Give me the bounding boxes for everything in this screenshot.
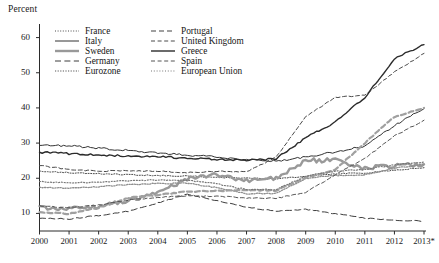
legend-column-right: PortugalUnited KingdomGreeceSpainEuropea… [150, 26, 286, 39]
y-tick-label: 20 [8, 172, 30, 182]
legend-item-greece[interactable]: Greece [150, 46, 286, 56]
legend-line-swatch-icon [150, 46, 176, 56]
y-tick-label: 10 [8, 207, 30, 217]
legend-label: United Kingdom [181, 36, 244, 46]
legend-label: Germany [85, 56, 120, 66]
legend-item-italy[interactable]: Italy [54, 36, 146, 46]
legend-label: European Union [181, 66, 242, 76]
legend-item-eurozone[interactable]: Eurozone [54, 66, 146, 76]
legend-item-portugal[interactable]: Portugal [150, 26, 286, 36]
series-line-spain [40, 120, 425, 208]
legend-label: Portugal [181, 26, 213, 36]
legend-label: Sweden [85, 46, 114, 56]
y-tick-label: 60 [8, 32, 30, 42]
x-tick-label: 2013* [407, 236, 439, 246]
legend-label: France [85, 26, 110, 36]
legend-line-swatch-icon [54, 46, 80, 56]
legend-item-sweden[interactable]: Sweden [54, 46, 146, 56]
y-tick-label: 30 [8, 137, 30, 147]
legend-line-swatch-icon [150, 56, 176, 66]
legend-item-germany[interactable]: Germany [54, 56, 146, 66]
legend-item-united-kingdom[interactable]: United Kingdom [150, 36, 286, 46]
legend-line-swatch-icon [54, 56, 80, 66]
chart-legend: FranceItalySwedenGermanyEurozone Portuga… [54, 26, 286, 96]
y-tick-label: 40 [8, 102, 30, 112]
series-line-portugal [40, 108, 425, 214]
legend-line-swatch-icon [54, 66, 80, 76]
legend-line-swatch-icon [150, 36, 176, 46]
series-line-sweden [40, 158, 425, 210]
series-line-italy [40, 109, 425, 162]
legend-line-swatch-icon [54, 36, 80, 46]
legend-label: Eurozone [85, 66, 121, 76]
legend-line-swatch-icon [54, 26, 80, 36]
legend-label: Italy [85, 36, 102, 46]
legend-label: Spain [181, 56, 202, 66]
y-tick-label: 50 [8, 67, 30, 77]
legend-column-left: FranceItalySwedenGermanyEurozone [54, 26, 146, 39]
legend-item-france[interactable]: France [54, 26, 146, 36]
legend-item-european-union[interactable]: European Union [150, 66, 286, 76]
legend-item-spain[interactable]: Spain [150, 56, 286, 66]
legend-line-swatch-icon [150, 26, 176, 36]
legend-label: Greece [181, 46, 207, 56]
legend-line-swatch-icon [150, 66, 176, 76]
